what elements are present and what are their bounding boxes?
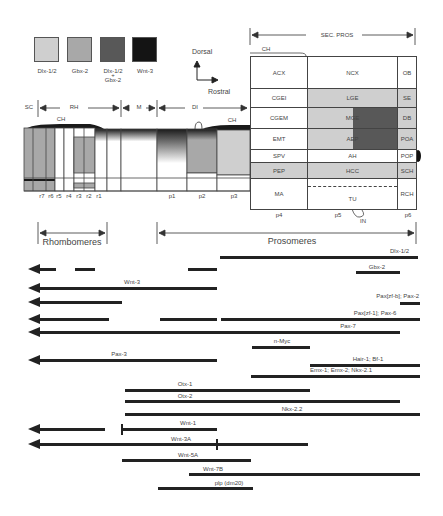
cell-cgem: CGEM [250, 107, 308, 129]
span-rhombomeres: Rhombomeres [42, 237, 101, 247]
cell-acx: ACX [250, 56, 308, 89]
segment-r7: r7 [39, 193, 44, 199]
gene-pax7: Pax-7 [340, 323, 356, 329]
gene-plp: plp (dm20) [215, 480, 244, 486]
gene-hair1: Hair-1; Bf-1 [353, 356, 384, 362]
region-m: M [137, 104, 142, 110]
cell-ma: MA [250, 178, 308, 210]
region-ch-grid: CH [262, 46, 271, 52]
region-sec-pros: SEC. PROS [321, 32, 354, 38]
gene-otx1: Otx-1 [178, 381, 193, 387]
gene-wnt1: Wnt-1 [180, 420, 196, 426]
gene-wnt5a: Wnt-5A [178, 452, 198, 458]
cell-tu-label: TU [349, 196, 357, 202]
cell-ah: AH [307, 149, 398, 163]
segment-p6: p6 [405, 212, 412, 218]
cell-db: DB [397, 107, 417, 129]
gene-bars [28, 256, 420, 490]
cell-rch: RCH [397, 178, 417, 210]
segment-r3: r3 [76, 193, 81, 199]
region-rh: RH [70, 104, 79, 110]
cell-aep: AEP [307, 128, 398, 150]
gene-pax3: Pax-3 [111, 351, 127, 357]
cell-mge-label: MGE [346, 115, 360, 121]
cell-poa: POA [397, 128, 417, 150]
gene-dlx: Dlx-1/2 [390, 248, 409, 254]
axis-arrows [194, 61, 218, 83]
cell-spv: SPV [250, 149, 308, 163]
span-prosomeres: Prosomeres [268, 236, 317, 246]
segment-p2: p2 [199, 193, 206, 199]
cell-se: SE [397, 88, 417, 108]
gene-gbx2: Gbx-2 [369, 264, 385, 270]
segment-r4: r4 [66, 193, 71, 199]
cell-pop: POP [397, 149, 417, 163]
segment-r6: r6 [48, 193, 53, 199]
cell-emt: EMT [250, 128, 308, 150]
gene-nkx22: Nkx-2.2 [282, 406, 303, 412]
gene-wnt3a: Wnt-3A [171, 436, 191, 442]
segment-p5: p5 [335, 212, 342, 218]
region-ch-mid: CH [228, 117, 237, 123]
cell-mge: MGE [307, 107, 398, 129]
segment-p1: p1 [169, 193, 176, 199]
gene-wnt3: Wnt-3 [124, 279, 140, 285]
region-ch-left: CH [57, 116, 66, 122]
gene-emx: Emx-1; Emx-2; Nkx-2.1 [310, 367, 372, 373]
cell-pep: PEP [250, 162, 308, 179]
cell-lge: LGE [307, 88, 398, 108]
segment-p4: p4 [276, 212, 283, 218]
cell-ob: OB [397, 56, 417, 89]
segment-r5: r5 [56, 193, 61, 199]
gene-otx2: Otx-2 [178, 393, 193, 399]
cell-hcc: HCC [307, 162, 398, 179]
region-di: DI [192, 104, 198, 110]
region-sc: SC [25, 104, 33, 110]
gene-wnt7b: Wnt-7B [203, 466, 223, 472]
gene-pax6: Pax[zf-1]; Pax-6 [354, 310, 397, 316]
segment-r2: r2 [86, 193, 91, 199]
cell-sch: SCH [397, 162, 417, 179]
cell-cgei: CGEI [250, 88, 308, 108]
in-label: IN [360, 218, 366, 224]
segment-p3: p3 [231, 193, 238, 199]
cell-aep-label: AEP [346, 136, 358, 142]
gene-pax2: Pax[zf-b]; Pax-2 [376, 293, 419, 299]
segment-r1: r1 [96, 193, 101, 199]
cell-ncx: NCX [307, 56, 398, 89]
gene-nmyc: n-Myc [274, 338, 290, 344]
tu-dashed-line [308, 186, 397, 187]
cell-tu: TU [307, 178, 398, 210]
